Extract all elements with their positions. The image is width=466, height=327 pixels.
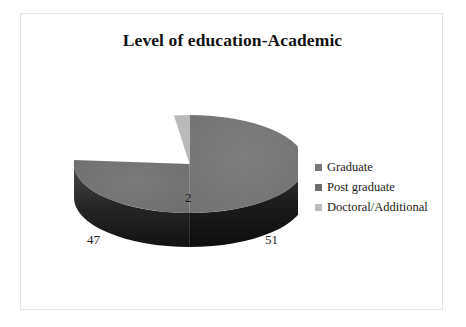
data-label-doctoral: 2 (185, 190, 192, 206)
legend-swatch-icon (315, 204, 322, 211)
data-label-graduate: 51 (265, 232, 278, 248)
legend-item-label: Post graduate (327, 181, 395, 194)
legend-item-doctoral-additional[interactable]: Doctoral/Additional (315, 197, 443, 217)
data-label-post-graduate: 47 (87, 232, 100, 248)
chart-frame: Level of education-Academic (20, 13, 443, 310)
legend-item-label: Graduate (327, 161, 373, 174)
pie-slice-top-doctoral (174, 115, 190, 164)
chart-title: Level of education-Academic (21, 30, 444, 51)
legend-swatch-icon (315, 184, 322, 191)
legend-item-post-graduate[interactable]: Post graduate (315, 177, 443, 197)
chart-legend: Graduate Post graduate Doctoral/Addition… (315, 157, 443, 217)
pie-chart-plot-area: 51 47 2 (33, 84, 298, 259)
legend-item-graduate[interactable]: Graduate (315, 157, 443, 177)
pie-chart-svg (33, 84, 298, 259)
legend-item-label: Doctoral/Additional (327, 201, 428, 214)
legend-swatch-icon (315, 164, 322, 171)
